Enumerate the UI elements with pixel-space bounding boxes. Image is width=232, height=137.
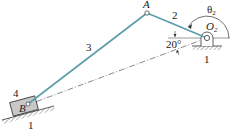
label-link-4: 4 bbox=[13, 87, 19, 99]
joint-a bbox=[145, 11, 149, 15]
label-ground-left: 1 bbox=[28, 119, 34, 131]
label-link-3: 3 bbox=[86, 41, 92, 53]
label-ground-right: 1 bbox=[204, 53, 210, 65]
label-link-2: 2 bbox=[172, 9, 178, 21]
label-a: A bbox=[142, 0, 150, 10]
slider-crank-diagram: A O2 B 2 3 4 1 1 θ2 20° bbox=[0, 0, 232, 137]
label-angle-20: 20° bbox=[166, 38, 181, 50]
link-3 bbox=[28, 13, 147, 104]
label-o2: O2 bbox=[206, 20, 218, 34]
joint-b bbox=[26, 102, 30, 106]
angle-arrow-upper-icon bbox=[174, 34, 177, 37]
label-b: B bbox=[19, 102, 26, 114]
ground-hatch-right bbox=[193, 46, 221, 50]
label-theta2: θ2 bbox=[207, 3, 216, 17]
joint-o2 bbox=[204, 35, 209, 40]
mechanism-svg: A O2 B 2 3 4 1 1 θ2 20° bbox=[0, 0, 232, 137]
